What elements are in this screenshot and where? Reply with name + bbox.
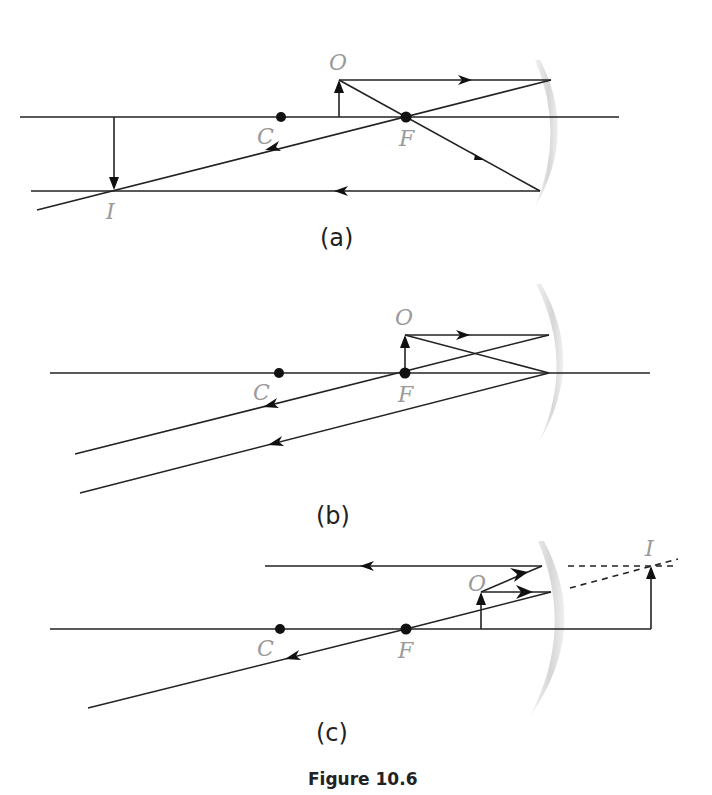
center-of-curvature-point: [274, 368, 284, 378]
image-label: I: [644, 536, 655, 561]
panel-c: O C F I (c): [50, 536, 678, 747]
center-of-curvature-point: [275, 624, 285, 634]
focal-point: [401, 112, 412, 123]
image-arrow: [109, 117, 119, 190]
focal-point: [400, 368, 411, 379]
object-label: O: [395, 305, 413, 330]
focus-label: F: [398, 126, 415, 151]
object-label: O: [329, 50, 347, 75]
center-of-curvature-point: [276, 112, 286, 122]
panel-b: O C F (b): [50, 284, 650, 530]
panel-a: O C F I (a): [20, 50, 619, 252]
figure-caption: Figure 10.6: [308, 769, 418, 789]
focus-label: F: [397, 638, 414, 663]
center-label: C: [253, 380, 270, 405]
focal-point: [401, 624, 412, 635]
focus-label: F: [397, 382, 414, 407]
panel-caption: (a): [320, 224, 353, 252]
mirror-ray-diagram-figure: O C F I (a) O C F (b): [0, 0, 712, 795]
concave-mirror: [535, 60, 558, 207]
panel-caption: (c): [316, 719, 348, 747]
virtual-ray-extension: [570, 559, 678, 588]
image-label: I: [105, 199, 116, 224]
center-label: C: [257, 124, 274, 149]
object-arrow: [400, 335, 410, 373]
concave-mirror: [536, 284, 563, 440]
object-label: O: [468, 571, 486, 596]
panel-caption: (b): [316, 502, 350, 530]
center-label: C: [257, 636, 274, 661]
object-arrow: [334, 80, 344, 117]
ray-direction-arrow: [510, 568, 528, 582]
image-arrow: [646, 566, 656, 629]
